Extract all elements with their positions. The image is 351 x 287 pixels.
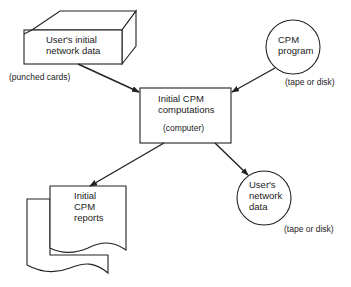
cpm-program-line-1: CPM — [278, 34, 313, 45]
network-data-label: User's network data — [249, 179, 282, 212]
network-data-line-2: network — [249, 190, 282, 201]
reports-label: Initial CPM reports — [74, 190, 104, 223]
computations-medium: (computer) — [163, 123, 204, 134]
computations-line-2: computations — [158, 104, 215, 115]
input-cards-label: User's initial network data — [46, 34, 100, 56]
reports-line-3: reports — [74, 212, 104, 223]
input-cards-line-2: network data — [46, 45, 100, 56]
cpm-program-medium: (tape or disk) — [285, 77, 335, 88]
computations-label: Initial CPM computations — [158, 93, 215, 115]
computations-line-1: Initial CPM — [158, 93, 215, 104]
network-data-medium: (tape or disk) — [284, 224, 334, 235]
cpm-program-label: CPM program — [278, 34, 313, 56]
reports-line-2: CPM — [74, 201, 104, 212]
input-cards-line-1: User's initial — [46, 34, 100, 45]
edge-program-to-computations — [232, 68, 275, 92]
network-data-line-3: data — [249, 201, 282, 212]
network-data-line-1: User's — [249, 179, 282, 190]
edge-computations-to-reports — [90, 143, 164, 186]
cpm-program-line-2: program — [278, 45, 313, 56]
edge-computations-to-network-data — [215, 143, 248, 175]
input-cards-medium: (punched cards) — [9, 72, 70, 83]
reports-line-1: Initial — [74, 190, 104, 201]
edge-cards-to-computations — [78, 64, 139, 92]
